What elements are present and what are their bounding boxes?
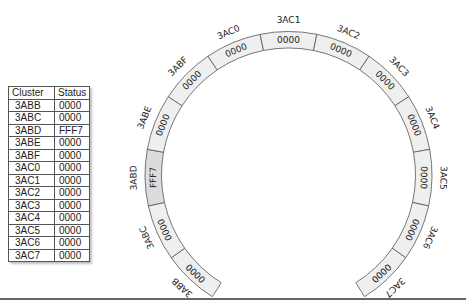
segment-cluster-label: 3ABE <box>135 105 153 131</box>
segment-cluster-label: 3AC0 <box>216 23 242 42</box>
segment-cluster-label: 3AC2 <box>336 23 362 41</box>
segment-status-label: FFF7 <box>148 167 158 188</box>
segment-status-label: 0000 <box>419 166 429 189</box>
segment-cluster-label: 3AC5 <box>438 166 448 190</box>
segment-cluster-label: 3ABD <box>128 165 138 190</box>
segment-cluster-label: 3AC1 <box>277 15 301 25</box>
segment-cluster-label: 3AC6 <box>421 225 440 251</box>
segment-status-label: 0000 <box>277 35 300 45</box>
cluster-ring-diagram: 00003ABB00003ABCFFF73ABD00003ABE00003ABF… <box>0 0 466 304</box>
bottom-divider <box>0 298 466 300</box>
segment-cluster-label: 3ABC <box>137 225 156 251</box>
segment-cluster-label: 3AC4 <box>423 105 441 131</box>
